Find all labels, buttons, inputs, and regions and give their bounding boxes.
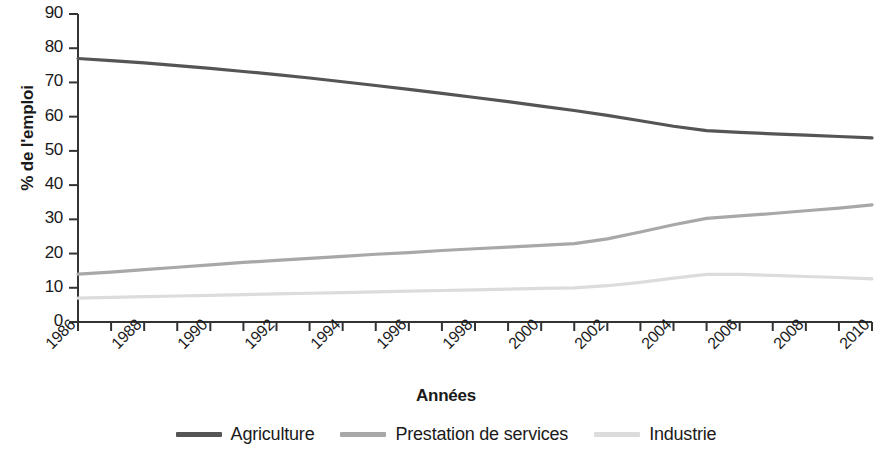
y-tick-label: 10 bbox=[23, 277, 63, 297]
series-line-industrie bbox=[78, 274, 872, 298]
y-tick-label: 60 bbox=[23, 106, 63, 126]
y-axis-ticks bbox=[69, 14, 78, 322]
y-tick-label: 30 bbox=[23, 208, 63, 228]
y-tick-label: 90 bbox=[23, 3, 63, 23]
series-line-agriculture bbox=[78, 58, 872, 137]
legend-swatch-icon bbox=[594, 432, 640, 437]
legend-swatch-icon bbox=[176, 432, 222, 437]
y-tick-label: 80 bbox=[23, 37, 63, 57]
data-series-group bbox=[78, 58, 872, 298]
y-tick-label: 20 bbox=[23, 243, 63, 263]
chart-legend: AgriculturePrestation de servicesIndustr… bbox=[0, 424, 892, 445]
chart-figure: % de l'emploi 0102030405060708090 198619… bbox=[0, 0, 892, 452]
y-tick-label: 50 bbox=[23, 140, 63, 160]
legend-item[interactable]: Prestation de services bbox=[340, 424, 568, 445]
y-tick-label: 40 bbox=[23, 174, 63, 194]
plot-area bbox=[0, 0, 892, 452]
y-tick-label: 70 bbox=[23, 71, 63, 91]
series-line-prestation-de-services bbox=[78, 205, 872, 274]
legend-label: Industrie bbox=[649, 424, 716, 445]
x-axis-title: Années bbox=[0, 386, 892, 406]
legend-label: Agriculture bbox=[231, 424, 315, 445]
legend-item[interactable]: Industrie bbox=[594, 424, 716, 445]
legend-swatch-icon bbox=[340, 432, 386, 437]
legend-item[interactable]: Agriculture bbox=[176, 424, 315, 445]
legend-label: Prestation de services bbox=[395, 424, 568, 445]
